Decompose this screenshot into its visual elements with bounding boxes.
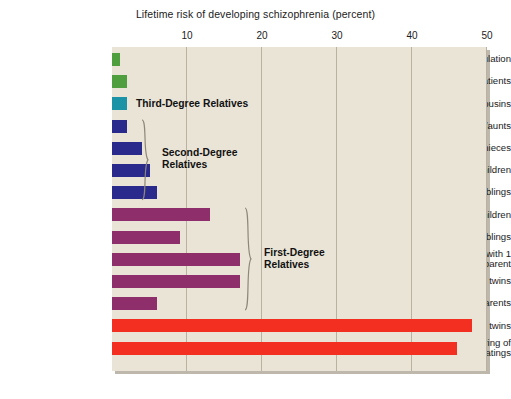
bar — [112, 297, 157, 310]
bar — [112, 97, 127, 110]
x-tick-label-30: 30 — [331, 30, 342, 41]
bar — [112, 208, 210, 221]
annotation-third-degree-relatives: Third-Degree Relatives — [136, 98, 248, 110]
bar — [112, 142, 142, 155]
brace-first-degree-relatives — [243, 206, 259, 312]
x-tick-label-50: 50 — [481, 30, 492, 41]
bar — [112, 275, 240, 288]
schizophrenia-risk-chart: Lifetime risk of developing schizophreni… — [0, 0, 511, 399]
bar — [112, 53, 120, 66]
annotation-first-degree-relatives: First-Degree Relatives — [264, 247, 325, 271]
bar — [112, 342, 457, 355]
x-tick-label-10: 10 — [181, 30, 192, 41]
bar — [112, 319, 472, 332]
annotation-second-degree-relatives: Second-Degree Relatives — [162, 147, 238, 171]
bar — [112, 75, 127, 88]
x-tick-label-40: 40 — [406, 30, 417, 41]
bar — [112, 253, 240, 266]
bar — [112, 120, 127, 133]
gridline-50 — [486, 47, 487, 371]
bar — [112, 231, 180, 244]
brace-second-degree-relatives — [140, 118, 156, 202]
x-tick-label-20: 20 — [256, 30, 267, 41]
plot-area — [112, 47, 487, 371]
chart-title: Lifetime risk of developing schizophreni… — [0, 8, 511, 20]
